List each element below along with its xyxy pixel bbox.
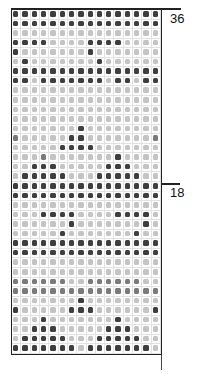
chart-cell [124,48,133,58]
chart-cell [40,163,49,173]
chart-cell [152,249,161,259]
chart-cell [152,96,161,106]
chart-cell [49,106,58,116]
chart-cell [105,335,114,345]
chart-cell [133,278,142,288]
chart-cell [114,29,123,39]
chart-cell [12,172,21,182]
chart-cell [96,344,105,354]
chart-cell [31,96,40,106]
chart-cell [105,211,114,221]
chart-cell [87,96,96,106]
chart-cell [133,48,142,58]
chart-cell [124,20,133,30]
chart-cell [21,153,30,163]
chart-cell [114,239,123,249]
chart-cell [31,182,40,192]
chart-cell [87,192,96,202]
chart-cell [12,192,21,202]
chart-cell [142,172,151,182]
chart-cell [96,220,105,230]
chart-cell [152,20,161,30]
chart-cell [96,153,105,163]
chart-cell [49,306,58,316]
chart-cell [21,278,30,288]
chart-cell [49,278,58,288]
chart-cell [105,125,114,135]
chart-cell [114,58,123,68]
chart-cell [124,153,133,163]
chart-cell [152,172,161,182]
chart-cell [87,29,96,39]
chart-cell [124,29,133,39]
chart-cell [96,316,105,326]
chart-cell [40,67,49,77]
chart-cell [59,29,68,39]
chart-cell [96,144,105,154]
chart-cell [142,20,151,30]
right-edge-extension [161,355,162,370]
chart-cell [105,134,114,144]
chart-cell [21,125,30,135]
chart-cell [31,106,40,116]
chart-cell [133,211,142,221]
chart-cell [124,335,133,345]
chart-cell [77,134,86,144]
chart-cell [87,249,96,259]
chart-cell [40,258,49,268]
chart-cell [96,163,105,173]
chart-cell [59,67,68,77]
chart-cell [40,297,49,307]
chart-cell [21,268,30,278]
chart-cell [152,316,161,326]
chart-cell [96,297,105,307]
chart-cell [49,239,58,249]
chart-cell [96,278,105,288]
chart-cell [152,182,161,192]
chart-cell [40,153,49,163]
chart-cell [40,287,49,297]
chart-cell [105,278,114,288]
chart-cell [49,153,58,163]
chart-cell [77,10,86,20]
chart-cell [49,268,58,278]
chart-cell [105,192,114,202]
chart-cell [77,58,86,68]
chart-cell [21,77,30,87]
chart-cell [31,316,40,326]
chart-cell [152,153,161,163]
chart-cell [152,67,161,77]
chart-cell [87,48,96,58]
chart-cell [49,172,58,182]
chart-cell [114,325,123,335]
chart-cell [96,172,105,182]
chart-cell [133,192,142,202]
chart-cell [49,211,58,221]
chart-cell [133,96,142,106]
chart-cell [105,220,114,230]
chart-cell [21,172,30,182]
chart-cell [133,297,142,307]
chart-cell [124,249,133,259]
chart-cell [114,163,123,173]
chart-cell [105,239,114,249]
chart-cell [31,39,40,49]
chart-cell [87,201,96,211]
chart-cell [133,10,142,20]
chart-cell [49,335,58,345]
chart-cell [68,316,77,326]
chart-cell [114,86,123,96]
chart-cell [142,96,151,106]
chart-cell [77,182,86,192]
chart-cell [31,344,40,354]
chart-cell [31,239,40,249]
chart-cell [21,239,30,249]
chart-cell [12,287,21,297]
chart-cell [40,278,49,288]
chart-cell [59,201,68,211]
chart-cell [31,287,40,297]
chart-cell [12,77,21,87]
chart-cell [21,249,30,259]
chart-cell [105,10,114,20]
chart-cell [133,239,142,249]
